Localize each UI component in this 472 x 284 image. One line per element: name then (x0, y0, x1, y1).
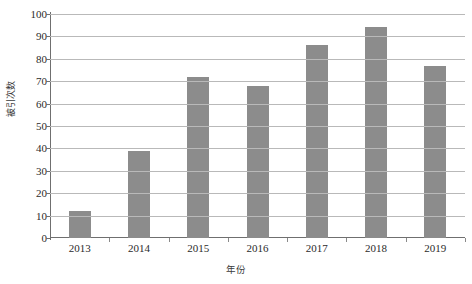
gridline (50, 104, 465, 105)
y-axis-tick-label: 10 (12, 210, 47, 222)
y-axis-tick-labels: 0102030405060708090100 (12, 14, 47, 238)
bar (128, 151, 150, 238)
gridline (50, 36, 465, 37)
y-axis-tick-mark (46, 171, 50, 172)
y-axis-tick-mark (46, 104, 50, 105)
bar (187, 77, 209, 238)
x-axis-tick-labels: 2013201420152016201720182019 (50, 242, 465, 258)
x-axis-tick-label: 2016 (247, 242, 269, 254)
y-axis-tick-label: 50 (12, 120, 47, 132)
x-axis-tick-label: 2018 (365, 242, 387, 254)
y-axis-tick-mark (46, 193, 50, 194)
y-axis-tick-label: 70 (12, 75, 47, 87)
y-axis-tick-label: 60 (12, 98, 47, 110)
gridline (50, 126, 465, 127)
bar (306, 45, 328, 238)
y-axis-tick-mark (46, 59, 50, 60)
y-axis-tick-label: 30 (12, 165, 47, 177)
gridline (50, 193, 465, 194)
x-axis-title: 年份 (0, 262, 472, 276)
y-axis-tick-label: 40 (12, 142, 47, 154)
y-axis-tick-mark (46, 126, 50, 127)
y-axis-tick-mark (46, 14, 50, 15)
x-axis-tick-label: 2014 (128, 242, 150, 254)
y-axis-tick-label: 80 (12, 53, 47, 65)
gridline (50, 148, 465, 149)
x-axis-tick-label: 2015 (187, 242, 209, 254)
x-axis-tick-label: 2017 (306, 242, 328, 254)
gridline (50, 171, 465, 172)
bar (424, 66, 446, 238)
x-axis-tick-label: 2019 (424, 242, 446, 254)
y-axis-tick-label: 100 (12, 8, 47, 20)
y-axis-tick-label: 20 (12, 187, 47, 199)
y-axis-tick-mark (46, 81, 50, 82)
plot-area (50, 14, 465, 238)
gridline (50, 216, 465, 217)
y-axis-tick-label: 0 (12, 232, 47, 244)
y-axis-tick-mark (46, 238, 50, 239)
x-axis-tick-mark (465, 238, 466, 242)
x-axis-tick-label: 2013 (69, 242, 91, 254)
y-axis-tick-mark (46, 36, 50, 37)
bar-chart: 被引次数 0102030405060708090100 201320142015… (0, 0, 472, 284)
gridline (50, 59, 465, 60)
y-axis-tick-mark (46, 216, 50, 217)
y-axis-tick-mark (46, 148, 50, 149)
gridline (50, 14, 465, 15)
y-axis-tick-label: 90 (12, 30, 47, 42)
gridline (50, 81, 465, 82)
